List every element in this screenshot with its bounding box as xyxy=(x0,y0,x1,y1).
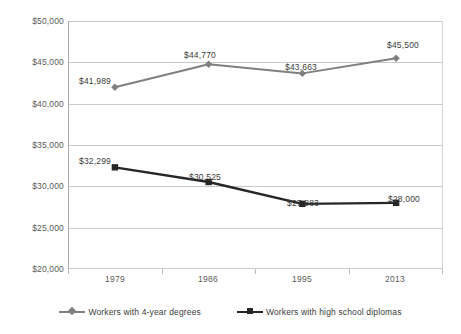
gridline xyxy=(68,21,443,22)
x-axis-tick-label: 1995 xyxy=(267,274,337,284)
gridline xyxy=(68,228,443,229)
plot-right-border xyxy=(442,21,443,269)
y-axis-tick-label: $40,000 xyxy=(4,99,64,109)
data-label: $41,989 xyxy=(79,76,111,86)
legend-entry-diploma[interactable]: Workers with high school diplomas xyxy=(237,307,402,317)
data-label: $30,525 xyxy=(189,172,221,182)
y-axis-tick-label: $45,000 xyxy=(4,57,64,67)
y-axis-tick-label: $30,000 xyxy=(4,181,64,191)
line-chart: $50,000 $45,000 $40,000 $35,000 $30,000 … xyxy=(0,0,461,334)
y-axis-tick-label: $25,000 xyxy=(4,223,64,233)
plot-area xyxy=(68,21,443,269)
gridline xyxy=(68,62,443,63)
gridline xyxy=(68,186,443,187)
gridline xyxy=(68,145,443,146)
y-axis-tick-label: $35,000 xyxy=(4,140,64,150)
x-axis-labels: 1979 1986 1995 2013 xyxy=(68,274,443,290)
data-label: $28,000 xyxy=(388,194,420,204)
y-axis-tick-label: $20,000 xyxy=(4,264,64,274)
data-label: $45,500 xyxy=(387,40,419,50)
legend: Workers with 4-year degrees Workers with… xyxy=(0,303,461,321)
legend-marker-diamond-icon xyxy=(59,307,85,317)
data-label: $27,883 xyxy=(287,198,319,208)
y-axis-tick-label: $50,000 xyxy=(4,16,64,26)
legend-label: Workers with 4-year degrees xyxy=(88,307,201,317)
x-axis-tick-label: 2013 xyxy=(360,274,430,284)
legend-entry-degrees[interactable]: Workers with 4-year degrees xyxy=(59,307,201,317)
x-axis-tick-label: 1986 xyxy=(173,274,243,284)
legend-marker-square-icon xyxy=(237,307,263,317)
x-axis-tick-label: 1979 xyxy=(80,274,150,284)
data-label: $32,299 xyxy=(79,156,111,166)
y-axis-line xyxy=(68,21,69,270)
gridline xyxy=(68,104,443,105)
y-axis-labels: $50,000 $45,000 $40,000 $35,000 $30,000 … xyxy=(0,21,64,269)
legend-label: Workers with high school diplomas xyxy=(266,307,402,317)
data-label: $43,663 xyxy=(285,62,317,72)
data-label: $44,770 xyxy=(184,50,216,60)
